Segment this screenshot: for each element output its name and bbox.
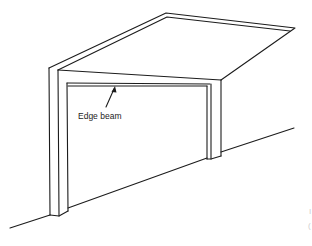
edge-beam-diagram: Edge beam I ( (0, 0, 312, 246)
left-column-front-edge (58, 70, 59, 216)
ground-line-middle (68, 158, 207, 208)
right-column-base (207, 156, 221, 159)
roof-slab-outer-edge (49, 13, 295, 80)
ground-line-left (10, 215, 50, 228)
edge-beam-top-line (58, 70, 221, 80)
cropped-caption-fragment-1: I (309, 207, 311, 216)
edge-beam-arrowhead-icon (112, 86, 117, 93)
cropped-caption-fragment-2: ( (308, 221, 311, 230)
ground-line-right (221, 128, 294, 152)
edge-beam-label: Edge beam (78, 111, 121, 121)
edge-beam-underside (67, 83, 210, 84)
left-column-outer-edge (49, 68, 50, 215)
left-column-inner-edge (67, 83, 68, 211)
roof-slab-inner-edge (58, 17, 290, 70)
